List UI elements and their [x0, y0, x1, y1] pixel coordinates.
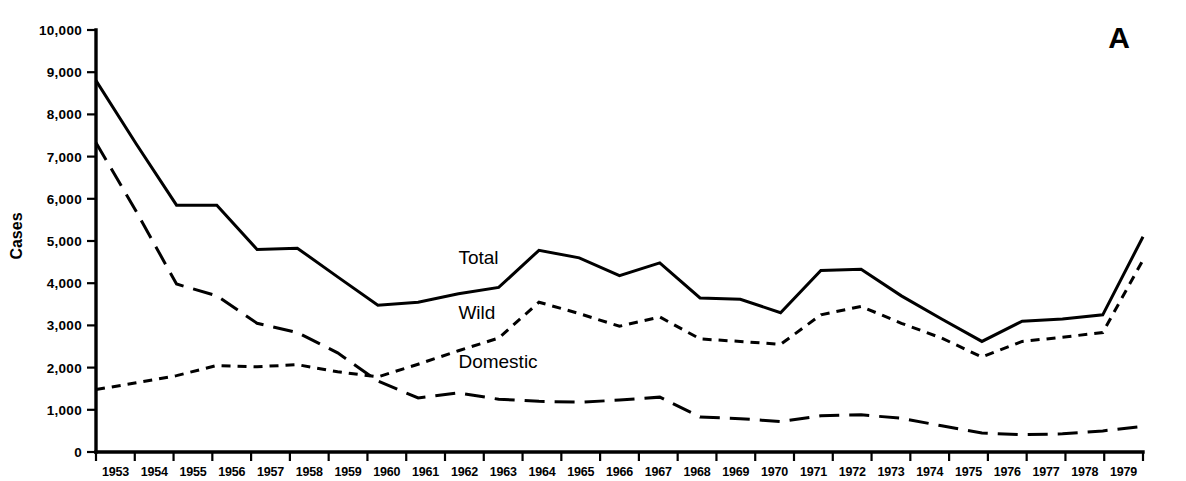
y-tick-label: 5,000 — [47, 234, 82, 249]
x-tick-label: 1969 — [722, 465, 749, 479]
y-tick-label: 3,000 — [47, 318, 82, 333]
x-tick-label: 1955 — [179, 465, 206, 479]
x-tick-label: 1977 — [1033, 465, 1060, 479]
x-tick-label: 1963 — [490, 465, 517, 479]
x-tick-label: 1967 — [645, 465, 672, 479]
y-axis-tick-labels: 01,0002,0003,0004,0005,0006,0007,0008,00… — [39, 23, 82, 460]
y-tick-label: 10,000 — [39, 23, 82, 38]
x-tick-label: 1956 — [218, 465, 245, 479]
series-label-wild: Wild — [458, 302, 495, 323]
series-line-wild — [96, 260, 1143, 390]
x-tick-label: 1972 — [839, 465, 866, 479]
y-tick-label: 1,000 — [47, 403, 82, 418]
x-tick-label: 1971 — [800, 465, 827, 479]
y-tick-label: 2,000 — [47, 361, 82, 376]
series-line-total — [96, 81, 1143, 342]
series-lines — [96, 81, 1143, 435]
x-tick-label: 1965 — [567, 465, 594, 479]
y-tick-label: 7,000 — [47, 150, 82, 165]
x-tick-label: 1954 — [141, 465, 168, 479]
x-tick-label: 1953 — [102, 465, 129, 479]
x-tick-label: 1957 — [257, 465, 284, 479]
x-tick-label: 1958 — [296, 465, 323, 479]
x-tick-label: 1970 — [761, 465, 788, 479]
x-tick-label: 1961 — [412, 465, 439, 479]
series-inline-labels: TotalWildDomestic — [458, 247, 537, 371]
x-tick-label: 1978 — [1071, 465, 1098, 479]
x-tick-label: 1964 — [528, 465, 555, 479]
x-tick-label: 1966 — [606, 465, 633, 479]
x-axis-tick-labels: 1953195419551956195719581959196019611962… — [102, 465, 1137, 479]
panel-label-a: A — [1108, 21, 1130, 54]
y-tick-label: 9,000 — [47, 65, 82, 80]
x-tick-label: 1975 — [955, 465, 982, 479]
y-tick-label: 6,000 — [47, 192, 82, 207]
y-tick-label: 0 — [74, 445, 82, 460]
chart-figure: 01,0002,0003,0004,0005,0006,0007,0008,00… — [0, 0, 1186, 481]
series-label-total: Total — [458, 247, 498, 268]
rabies-cases-line-chart: 01,0002,0003,0004,0005,0006,0007,0008,00… — [0, 0, 1186, 481]
x-tick-label: 1968 — [684, 465, 711, 479]
x-tick-label: 1959 — [335, 465, 362, 479]
y-tick-label: 4,000 — [47, 276, 82, 291]
x-tick-label: 1960 — [373, 465, 400, 479]
series-label-domestic: Domestic — [458, 351, 537, 372]
series-line-domestic — [96, 143, 1143, 435]
x-tick-label: 1962 — [451, 465, 478, 479]
x-tick-label: 1974 — [916, 465, 943, 479]
x-tick-label: 1976 — [994, 465, 1021, 479]
x-tick-label: 1979 — [1110, 465, 1137, 479]
y-axis-title: Cases — [8, 212, 25, 259]
x-tick-label: 1973 — [877, 465, 904, 479]
y-tick-label: 8,000 — [47, 107, 82, 122]
